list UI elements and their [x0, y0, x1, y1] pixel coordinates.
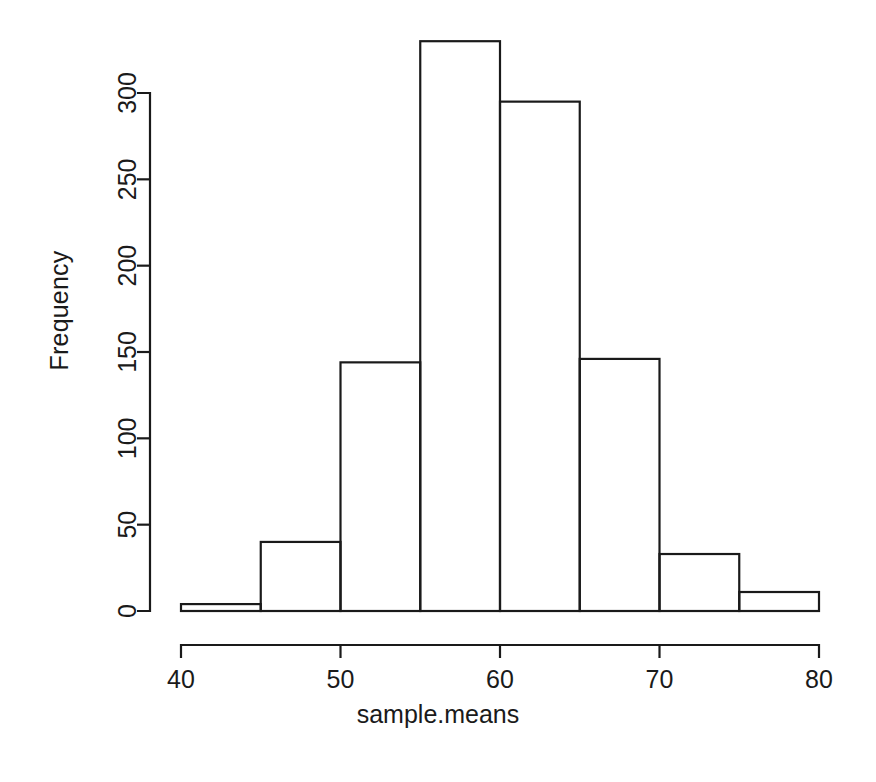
- x-axis-title: sample.means: [0, 700, 876, 729]
- histogram-plot: Frequency sample.means 05010015020025030…: [0, 0, 876, 782]
- x-axis-tick-label: 50: [327, 665, 355, 693]
- histogram-bar: [341, 362, 421, 611]
- histogram-bar: [580, 359, 660, 611]
- histogram-bar: [500, 102, 580, 611]
- x-axis-tick-label: 40: [167, 665, 195, 693]
- x-axis: 4050607080: [167, 645, 833, 693]
- y-axis-tick-label: 100: [113, 417, 141, 459]
- histogram-bar: [739, 592, 819, 611]
- y-axis-tick-label: 250: [113, 158, 141, 200]
- x-axis-tick-label: 70: [646, 665, 674, 693]
- histogram-bar: [261, 542, 341, 611]
- x-axis-tick-label: 80: [805, 665, 833, 693]
- y-axis-tick-label: 0: [113, 604, 141, 618]
- histogram-bar: [420, 41, 500, 611]
- y-axis-tick-label: 200: [113, 245, 141, 287]
- y-axis-tick-label: 50: [113, 511, 141, 539]
- x-axis-tick-label: 60: [486, 665, 514, 693]
- histogram-bar: [660, 554, 740, 611]
- y-axis-tick-label: 300: [113, 72, 141, 114]
- plot-canvas: 050100150200250300 4050607080: [0, 0, 876, 782]
- y-axis: 050100150200250300: [113, 72, 150, 618]
- y-axis-tick-label: 150: [113, 331, 141, 373]
- histogram-bar: [181, 604, 261, 611]
- histogram-bars: [181, 41, 819, 611]
